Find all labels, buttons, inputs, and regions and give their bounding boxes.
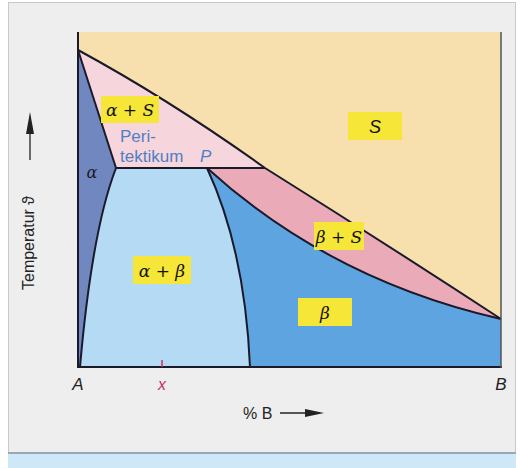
y-axis-arrow-icon — [26, 112, 34, 160]
label-liquid: S — [369, 117, 381, 137]
y-axis-label: Temperatur ϑ — [20, 196, 37, 290]
x-left-label: A — [71, 375, 83, 394]
x-right-label: B — [495, 375, 506, 394]
label-alpha: α — [87, 163, 98, 182]
label-beta: β — [319, 303, 330, 323]
phase-diagram: α + S S β + S β α + β α Peri- tektikum P… — [0, 0, 520, 468]
peritectic-label-line2: tektikum — [120, 147, 183, 166]
label-alpha-plus-beta: α + β — [139, 261, 186, 281]
x-axis-label: % B — [243, 405, 272, 422]
label-alpha-plus-liquid: α + S — [106, 100, 154, 120]
peritectic-label-line1: Peri- — [120, 127, 156, 146]
peritectic-point-label: P — [200, 147, 212, 166]
label-beta-plus-liquid: β + S — [315, 227, 363, 247]
x-marker-label: x — [157, 376, 167, 393]
x-axis-arrow-icon — [280, 409, 324, 417]
